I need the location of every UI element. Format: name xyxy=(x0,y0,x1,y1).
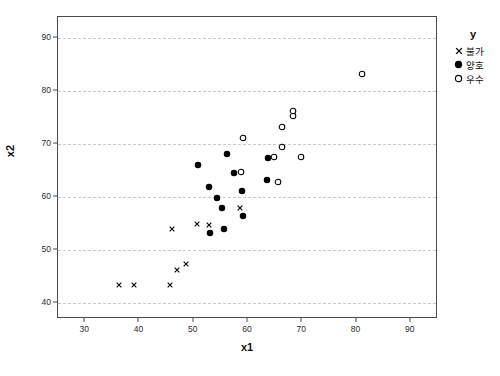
data-point-filled-circle xyxy=(218,204,226,212)
data-point-filled-circle xyxy=(223,150,231,158)
data-point-open-circle xyxy=(239,134,247,142)
legend-entry-label: 불가 xyxy=(466,44,484,58)
data-point-filled-circle xyxy=(263,176,271,184)
legend: y 불가양호우수 xyxy=(452,28,500,86)
y-tick-label: 70 xyxy=(31,138,51,148)
data-point-x xyxy=(167,281,174,288)
y-axis-title: x2 xyxy=(4,145,16,157)
legend-entries: 불가양호우수 xyxy=(452,44,500,85)
x-tick-label: 60 xyxy=(242,324,251,334)
x-tick-mark xyxy=(192,318,193,322)
data-point-open-circle xyxy=(278,123,286,131)
gridline-y xyxy=(58,197,436,198)
data-point-filled-circle xyxy=(213,194,221,202)
data-point-open-circle xyxy=(278,143,286,151)
legend-entry-label: 우수 xyxy=(466,72,484,86)
y-tick-label: 40 xyxy=(31,297,51,307)
filled-circle-marker xyxy=(452,58,465,71)
data-point-open-circle xyxy=(289,107,297,115)
plot-area xyxy=(57,16,437,318)
data-point-x xyxy=(131,281,138,288)
data-point-open-circle xyxy=(274,178,282,186)
data-point-x xyxy=(116,281,123,288)
x-tick-label: 50 xyxy=(188,324,197,334)
x-tick-label: 40 xyxy=(134,324,143,334)
legend-entry: 우수 xyxy=(452,72,500,85)
data-point-open-circle xyxy=(237,168,245,176)
data-point-filled-circle xyxy=(239,212,247,220)
data-point-x xyxy=(237,205,244,212)
x-marker xyxy=(452,44,465,57)
x-tick-label: 70 xyxy=(297,324,306,334)
gridline-y xyxy=(58,144,436,145)
x-tick-label: 90 xyxy=(405,324,414,334)
x-tick-mark xyxy=(409,318,410,322)
data-point-x xyxy=(169,226,176,233)
open-circle-marker xyxy=(452,72,465,85)
data-point-x xyxy=(182,261,189,268)
legend-entry: 양호 xyxy=(452,58,500,71)
x-tick-mark xyxy=(301,318,302,322)
x-tick-mark xyxy=(138,318,139,322)
data-point-filled-circle xyxy=(194,161,202,169)
x-tick-label: 30 xyxy=(79,324,88,334)
gridline-y xyxy=(58,303,436,304)
x-axis-title: x1 xyxy=(57,341,437,353)
gridline-y xyxy=(58,91,436,92)
data-point-x xyxy=(174,267,181,274)
scatter-plot-figure: x2 x1 30405060708090405060708090 y 불가양호우… xyxy=(0,0,500,376)
data-point-filled-circle xyxy=(205,183,213,191)
data-point-filled-circle xyxy=(220,225,228,233)
data-point-filled-circle xyxy=(206,229,214,237)
data-point-x xyxy=(206,221,213,228)
data-point-open-circle xyxy=(270,153,278,161)
legend-entry-label: 양호 xyxy=(466,58,484,72)
x-tick-mark xyxy=(84,318,85,322)
y-tick-label: 90 xyxy=(31,32,51,42)
legend-entry: 불가 xyxy=(452,44,500,57)
data-point-filled-circle xyxy=(238,187,246,195)
data-point-x xyxy=(194,220,201,227)
gridline-y xyxy=(58,38,436,39)
gridline-y xyxy=(58,250,436,251)
y-tick-label: 50 xyxy=(31,244,51,254)
data-point-open-circle xyxy=(358,70,366,78)
y-tick-label: 80 xyxy=(31,85,51,95)
x-tick-mark xyxy=(355,318,356,322)
x-tick-label: 80 xyxy=(351,324,360,334)
data-point-open-circle xyxy=(297,153,305,161)
x-tick-mark xyxy=(247,318,248,322)
legend-title: y xyxy=(452,28,500,40)
y-tick-label: 60 xyxy=(31,191,51,201)
